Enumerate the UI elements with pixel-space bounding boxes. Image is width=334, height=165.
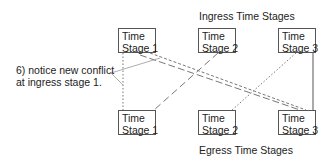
ingress-stage-1: Time Stage 1	[118, 28, 156, 53]
ingress-stage-3-line2: Stage 3	[282, 42, 315, 54]
annotation-note: 6) notice new conflict at ingress stage …	[16, 64, 114, 88]
egress-stage-3: Time Stage 3	[278, 110, 316, 135]
ingress-stage-3: Time Stage 3	[278, 28, 316, 53]
egress-stage-3-line1: Time	[282, 112, 315, 124]
connection-i1-e3-short	[150, 53, 306, 110]
egress-stage-1-line2: Stage 1	[122, 124, 155, 136]
ingress-stage-2-line2: Stage 2	[202, 42, 235, 54]
ingress-stage-2-line1: Time	[202, 30, 235, 42]
annotation-line2: at ingress stage 1.	[16, 76, 114, 88]
egress-stage-3-line2: Stage 3	[282, 124, 315, 136]
connection-i2-e1	[154, 53, 218, 110]
egress-stage-1-line1: Time	[122, 112, 155, 124]
callout-line	[111, 58, 160, 85]
egress-stage-2-line1: Time	[202, 112, 235, 124]
ingress-stage-1-line1: Time	[122, 30, 155, 42]
egress-title: Egress Time Stages	[199, 144, 293, 156]
egress-stage-2-line2: Stage 2	[202, 124, 235, 136]
ingress-stage-1-line2: Stage 1	[122, 42, 155, 54]
ingress-title: Ingress Time Stages	[199, 10, 295, 22]
egress-stage-1: Time Stage 1	[118, 110, 156, 135]
egress-stage-2: Time Stage 2	[198, 110, 236, 135]
connection-i3-e2	[232, 53, 296, 110]
ingress-stage-2: Time Stage 2	[198, 28, 236, 53]
annotation-line1: 6) notice new conflict	[16, 64, 114, 76]
ingress-stage-3-line1: Time	[282, 30, 315, 42]
